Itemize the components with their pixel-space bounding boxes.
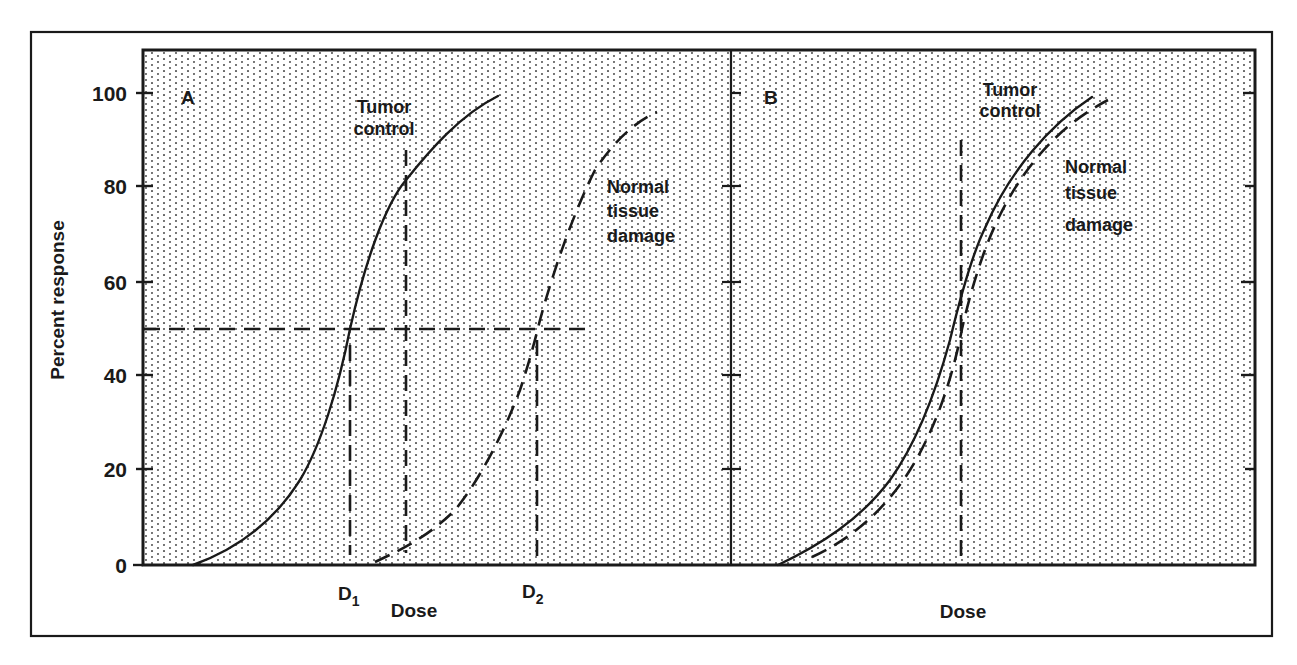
y-tick-80: 80 — [104, 175, 127, 198]
panel-a-x-axis-title: Dose — [391, 600, 437, 621]
y-axis-title: Percent response — [47, 220, 68, 379]
y-tick-labels: 100 80 60 40 20 0 — [92, 82, 127, 577]
y-tick-20: 20 — [104, 458, 127, 481]
y-tick-100: 100 — [92, 82, 127, 105]
panel-b-normal-label-line3: damage — [1065, 215, 1133, 235]
panel-b-normal-label-line2: tissue — [1065, 183, 1117, 203]
panel-a-normal-label-line1: Normal — [607, 177, 669, 197]
panel-b-tumor-label-line1: Tumor — [983, 80, 1038, 100]
x-tick-d1: D1 — [338, 583, 360, 609]
plot-area-background — [143, 50, 1255, 565]
panel-b-x-axis-title: Dose — [940, 601, 986, 622]
panel-a-label: A — [181, 87, 195, 108]
panel-b-tumor-label-line2: control — [980, 101, 1041, 121]
panel-a-tumor-label-line2: control — [354, 119, 415, 139]
y-tick-0: 0 — [115, 554, 127, 577]
panel-b-normal-label-line1: Normal — [1065, 157, 1127, 177]
panel-a-tumor-label-line1: Tumor — [357, 97, 412, 117]
y-tick-60: 60 — [104, 271, 127, 294]
y-tick-40: 40 — [104, 364, 127, 387]
dose-response-figure: 100 80 60 40 20 0 Percent response A Tum… — [0, 0, 1297, 665]
panel-b-label: B — [764, 87, 778, 108]
x-tick-d2: D2 — [522, 581, 544, 607]
panel-a-normal-label-line3: damage — [607, 226, 675, 246]
panel-a-normal-label-line2: tissue — [607, 201, 659, 221]
